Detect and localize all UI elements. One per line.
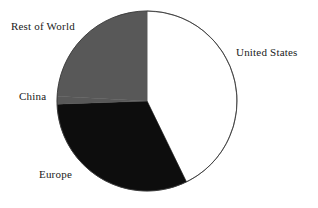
- pie-label-united-states: United States: [236, 47, 298, 58]
- pie-label-china: China: [19, 91, 46, 102]
- pie-chart-figure: Rest of World United States China Europe: [0, 0, 318, 208]
- pie-label-europe: Europe: [39, 169, 72, 180]
- pie-slices: [57, 11, 237, 191]
- pie-label-rest-of-world: Rest of World: [11, 21, 75, 32]
